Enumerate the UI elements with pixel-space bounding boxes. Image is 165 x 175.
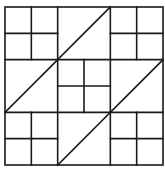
quilt-block-diagram <box>0 0 165 175</box>
triangle-diagonal <box>58 112 111 165</box>
triangle-diagonal <box>58 7 111 60</box>
triangle-diagonal <box>5 60 58 113</box>
triangle-diagonal <box>110 60 163 113</box>
